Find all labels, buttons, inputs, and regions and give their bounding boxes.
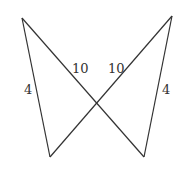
right-side-label: 4 <box>162 82 170 97</box>
left-diagonal-segment <box>22 18 144 157</box>
right-diagonal-segment <box>50 16 172 157</box>
diagram-canvas: 4 10 10 4 <box>0 0 184 172</box>
right-diagonal-label: 10 <box>108 61 125 76</box>
crossed-triangles-figure: 4 10 10 4 <box>0 0 184 172</box>
left-side-label: 4 <box>24 82 32 97</box>
left-diagonal-label: 10 <box>72 61 89 76</box>
